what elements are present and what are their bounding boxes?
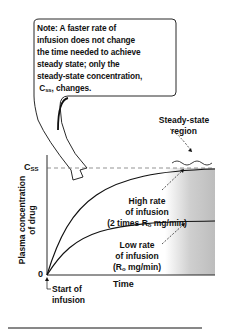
steady-state-label: Steady-stateregion <box>148 115 220 137</box>
y-axis-label: Plasma concentrationof drug <box>17 165 37 275</box>
steady-state-brace <box>172 161 212 165</box>
start-of-infusion-label: Start ofinfusion <box>52 284 85 306</box>
low-rate-label: Low rateof infusion (Ro mg/min) <box>104 240 170 275</box>
origin-label: 0 <box>38 269 43 280</box>
callout-note: Note: A faster rate of infusion does not… <box>37 22 177 96</box>
x-axis-label: Time <box>113 279 134 290</box>
high-rate-label: High rateof infusion (2 times Ro mg/min) <box>106 196 188 231</box>
